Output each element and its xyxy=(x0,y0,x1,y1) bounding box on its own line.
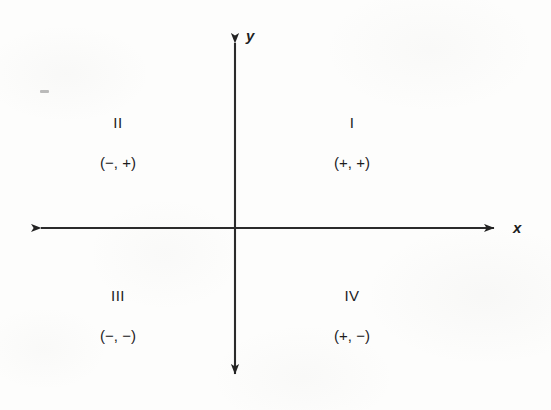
quadrant-1-signs: (+, +) xyxy=(277,155,427,170)
quadrant-3-signs: (−, −) xyxy=(43,328,193,343)
quadrant-3-roman: III xyxy=(43,288,193,303)
quadrant-diagram-figure: y x I (+, +) II (−, +) III (−, −) IV (+,… xyxy=(0,0,551,410)
quadrant-4-roman: IV xyxy=(277,288,427,303)
quadrant-3-group: III (−, −) xyxy=(43,288,193,343)
quadrant-1-group: I (+, +) xyxy=(277,115,427,170)
quadrant-4-signs: (+, −) xyxy=(277,328,427,343)
axes-svg xyxy=(0,0,551,410)
quadrant-2-group: II (−, +) xyxy=(43,115,193,170)
quadrant-2-signs: (−, +) xyxy=(43,155,193,170)
quadrant-4-group: IV (+, −) xyxy=(277,288,427,343)
x-axis-label: x xyxy=(513,219,521,236)
quadrant-1-roman: I xyxy=(277,115,427,130)
quadrant-2-roman: II xyxy=(43,115,193,130)
y-axis-label: y xyxy=(246,27,254,44)
scan-speck-artifact xyxy=(40,90,49,93)
